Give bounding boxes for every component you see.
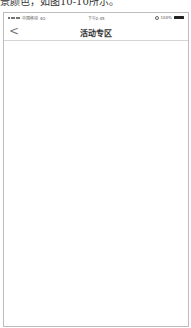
nav-bar: < 活动专区 [4, 22, 188, 41]
battery-percent: 100% [161, 15, 172, 20]
status-right: 100% [155, 15, 184, 20]
status-bar: 中国移动 4G 下午2:45 100% [4, 13, 188, 22]
content-area [4, 42, 188, 326]
document-caption: 景颜色，如图10-10所示。 [0, 0, 191, 8]
battery-icon [174, 16, 184, 19]
phone-mockup: 中国移动 4G 下午2:45 100% < 活动专区 [3, 12, 189, 327]
page-title: 活动专区 [4, 27, 188, 38]
alarm-icon [155, 16, 159, 20]
